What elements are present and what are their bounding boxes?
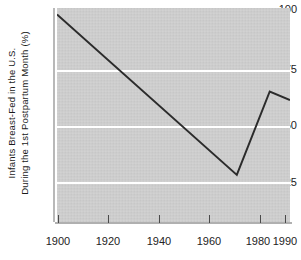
x-tick-1920: [108, 215, 109, 223]
series-line-infants-breast-fed: [57, 8, 290, 222]
x-tick-1960: [209, 215, 210, 223]
x-tick-label-1920: 1920: [88, 236, 128, 247]
x-tick-label-1990: 1990: [265, 236, 301, 247]
x-axis-line: [55, 222, 292, 224]
x-tick-1990: [285, 215, 286, 223]
x-tick-label-1960: 1960: [189, 236, 229, 247]
x-tick-1940: [159, 215, 160, 223]
y-axis-title: Infants Breast-Fed in the U.S. During th…: [0, 0, 36, 226]
x-tick-label-1940: 1940: [139, 236, 179, 247]
chart-figure: Infants Breast-Fed in the U.S. During th…: [0, 0, 301, 260]
plot-area: [57, 8, 290, 222]
x-tick-1980: [260, 215, 261, 223]
y-axis-line: [53, 8, 55, 222]
x-tick-1900: [58, 215, 59, 223]
y-axis-title-line2: During the 1st Postpartum Month (%): [18, 31, 31, 194]
y-axis-title-line1: Infants Breast-Fed in the U.S.: [5, 31, 18, 194]
x-tick-label-1900: 1900: [38, 236, 78, 247]
